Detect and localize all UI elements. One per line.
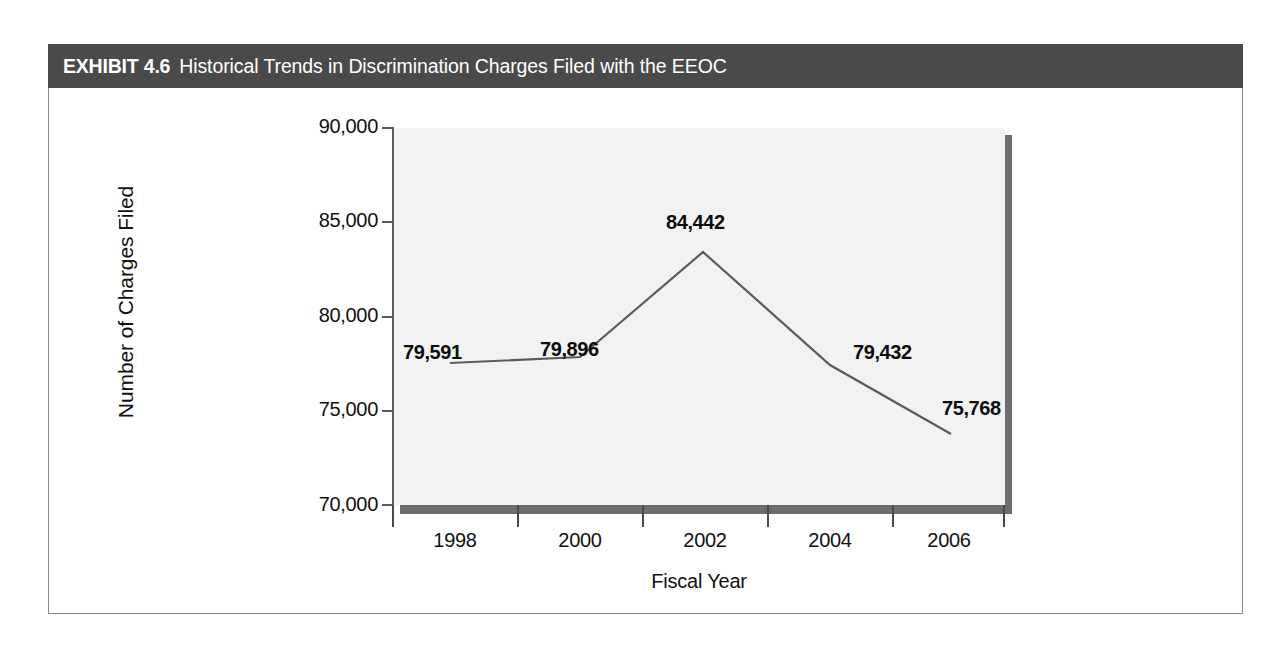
plot-shadow-bottom [400,505,1012,514]
exhibit-number: EXHIBIT 4.6 [63,55,170,78]
data-label-1998: 79,591 [403,341,462,364]
y-tick-mark [382,127,392,129]
data-label-2000: 79,896 [540,338,599,361]
exhibit-header: EXHIBIT 4.6 Historical Trends in Discrim… [48,44,1243,88]
exhibit-container: EXHIBIT 4.6 Historical Trends in Discrim… [0,0,1286,656]
data-label-2002: 84,442 [666,211,725,234]
x-tick-label: 1998 [405,529,505,552]
x-tick-mark [642,505,644,527]
y-tick-mark [382,410,392,412]
y-tick-label: 70,000 [319,493,378,516]
x-tick-mark [392,505,394,527]
data-label-2004: 79,432 [853,341,912,364]
x-tick-mark [767,505,769,527]
x-tick-label: 2004 [780,529,880,552]
y-tick-mark [382,316,392,318]
x-tick-mark [1003,505,1005,527]
data-label-2006: 75,768 [942,397,1001,420]
exhibit-caption: Historical Trends in Discrimination Char… [179,55,726,78]
y-tick-label: 90,000 [319,115,378,138]
y-tick-label: 75,000 [319,398,378,421]
x-axis-title: Fiscal Year [393,570,1005,593]
x-tick-mark [517,505,519,527]
y-tick-mark [382,221,392,223]
y-tick-label: 80,000 [319,304,378,327]
x-tick-mark [892,505,894,527]
x-tick-label: 2002 [655,529,755,552]
x-tick-label: 2000 [530,529,630,552]
line-series [393,128,1005,505]
y-axis-title: Number of Charges Filed [114,137,138,467]
y-axis-labels: 90,000 85,000 80,000 75,000 70,000 [208,88,378,518]
chart-region: Number of Charges Filed 90,000 85,000 80… [48,88,1243,614]
y-tick-label: 85,000 [319,209,378,232]
y-tick-mark [382,504,392,506]
x-tick-label: 2006 [899,529,999,552]
